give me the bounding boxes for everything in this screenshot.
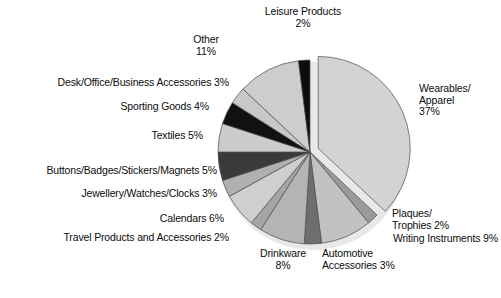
pie-label-plaques-trophies: Plaques/ Trophies 2%	[392, 208, 472, 231]
pie-label-desk-office-business-accessories: Desk/Office/Business Accessories 3%	[10, 77, 229, 89]
pie-label-jewellery-watches-clocks: Jewellery/Watches/Clocks 3%	[48, 188, 217, 200]
pie-label-calendars: Calendars 6%	[110, 213, 224, 225]
pie-label-travel-products-and-accessories: Travel Products and Accessories 2%	[28, 232, 229, 244]
pie-label-other: Other 11%	[175, 34, 237, 57]
pie-label-sporting-goods: Sporting Goods 4%	[70, 101, 209, 113]
pie-slice-group	[218, 56, 410, 250]
pie-label-textiles: Textiles 5%	[106, 130, 203, 142]
pie-label-buttons-badges-stickers-magnets: Buttons/Badges/Stickers/Magnets 5%	[8, 165, 217, 177]
pie-label-automotive-accessories: Automotive Accessories 3%	[322, 248, 414, 271]
pie-label-drinkware: Drinkware 8%	[250, 248, 316, 271]
pie-label-writing-instruments: Writing Instruments 9%	[358, 233, 498, 245]
pie-chart: Leisure Products 2%Other 11%Desk/Office/…	[0, 0, 501, 298]
pie-label-leisure-products: Leisure Products 2%	[253, 6, 353, 29]
pie-label-wearables-apparel: Wearables/ Apparel 37%	[419, 83, 495, 118]
